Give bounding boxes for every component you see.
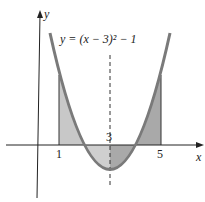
tick-label-3: 3 <box>106 130 112 145</box>
y-axis-arrow-icon <box>37 10 43 18</box>
y-axis-label: y <box>44 7 49 22</box>
tick-label-1: 1 <box>56 147 62 162</box>
parabola-diagram: y x y = (x − 3)² − 1 1 3 5 <box>0 0 205 202</box>
y-axis <box>37 14 40 198</box>
shaded-region-mid-right <box>110 145 135 170</box>
tick-label-5: 5 <box>157 147 163 162</box>
x-axis-arrow-icon <box>196 142 204 148</box>
graph <box>0 0 205 202</box>
x-axis-label: x <box>196 150 201 165</box>
equation-label: y = (x − 3)² − 1 <box>60 32 137 47</box>
